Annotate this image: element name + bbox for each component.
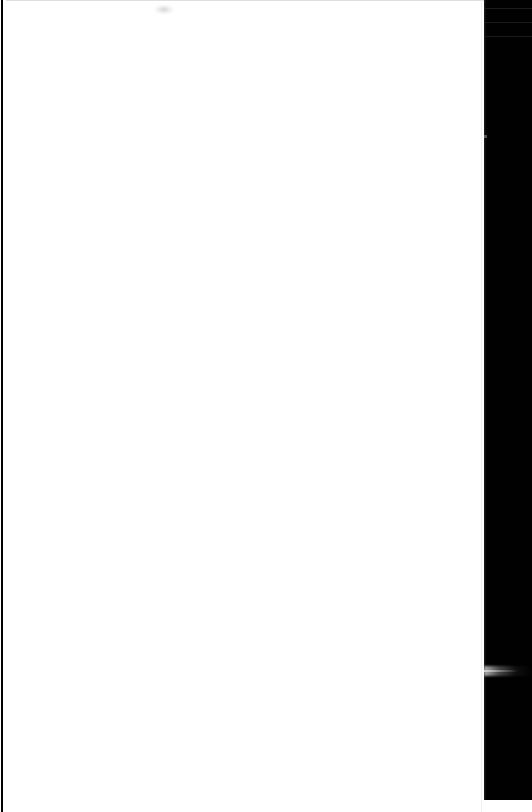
content-top-hairline <box>6 0 484 1</box>
content-pane[interactable] <box>0 0 484 812</box>
side-panel-divider-1 <box>484 8 532 9</box>
side-panel-divider-3 <box>484 36 532 37</box>
side-panel-highlight-core <box>484 670 518 672</box>
left-edge-rule <box>1 0 3 812</box>
side-panel-inner-edge <box>484 0 488 800</box>
document-body[interactable] <box>6 2 480 810</box>
page-smudge <box>154 5 174 14</box>
side-panel-divider-2 <box>484 22 532 23</box>
side-panel-speck <box>484 135 487 138</box>
screenshot-root <box>0 0 532 812</box>
content-right-hairline <box>481 0 482 812</box>
side-panel-foot-gutter <box>484 800 532 812</box>
dark-side-panel[interactable] <box>484 0 532 800</box>
